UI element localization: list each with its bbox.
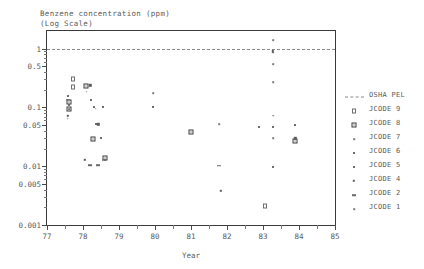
x-axis-tick	[335, 225, 336, 230]
x-axis-tick	[47, 225, 48, 230]
legend-row: JCODE 6	[345, 146, 424, 160]
data-point	[96, 164, 100, 166]
y-axis-tick-label: 0.5	[27, 62, 41, 71]
legend-label: JCODE 6	[369, 147, 401, 155]
y-axis-minor-tick	[44, 113, 48, 114]
data-point	[272, 137, 274, 139]
data-point	[71, 77, 75, 82]
y-axis-tick-label: 0.1	[27, 103, 41, 112]
y-axis-tick	[42, 66, 47, 67]
data-point	[91, 137, 96, 142]
data-point	[189, 130, 194, 135]
y-axis-tick	[42, 184, 47, 185]
data-point	[294, 137, 296, 139]
legend-row: JCODE 9	[345, 104, 424, 118]
y-axis-tick-label: 1	[36, 44, 41, 53]
x-axis-minor-tick	[137, 225, 138, 229]
y-axis-minor-tick	[44, 62, 48, 63]
y-axis-minor-tick	[44, 138, 48, 139]
data-point	[102, 159, 104, 161]
data-point	[272, 39, 274, 41]
x-axis-tick-label: 82	[222, 232, 231, 241]
data-point	[272, 63, 274, 65]
x-axis-minor-tick	[281, 225, 282, 229]
y-axis-minor-tick	[44, 72, 48, 73]
data-point	[263, 204, 267, 209]
x-axis-tick-label: 83	[258, 232, 267, 241]
y-axis-minor-tick	[44, 190, 48, 191]
data-point	[294, 124, 296, 126]
y-axis-minor-tick	[44, 179, 48, 180]
data-point	[272, 115, 274, 117]
data-point	[86, 91, 88, 93]
y-axis-minor-tick	[44, 207, 48, 208]
data-point	[67, 95, 69, 97]
x-axis-tick-label: 78	[78, 232, 87, 241]
y-axis-tick-label: 0.001	[18, 221, 41, 230]
y-axis-minor-tick	[44, 149, 48, 150]
y-axis-tick	[42, 166, 47, 167]
y-axis-minor-tick	[44, 197, 48, 198]
legend-label: JCODE 4	[369, 175, 401, 183]
y-axis-minor-tick	[44, 172, 48, 173]
y-axis-minor-tick	[44, 110, 48, 111]
y-axis-minor-tick	[44, 58, 48, 59]
osha-pel-threshold-line	[47, 49, 335, 50]
plot-area: 10.50.10.050.010.0050.001777879808182838…	[46, 30, 336, 226]
x-axis-tick-label: 80	[150, 232, 159, 241]
y-axis-minor-tick	[44, 175, 48, 176]
legend-row: JCODE 5	[345, 160, 424, 174]
legend-label: JCODE 7	[369, 133, 401, 141]
x-axis-minor-tick	[173, 225, 174, 229]
x-axis-minor-tick	[245, 225, 246, 229]
data-point	[272, 126, 274, 128]
y-axis-tick	[42, 125, 47, 126]
data-point	[97, 123, 99, 125]
x-axis-tick	[191, 225, 192, 230]
y-axis-tick-label: 0.05	[23, 121, 41, 130]
legend-label: OSHA PEL	[369, 91, 405, 99]
data-point	[258, 126, 260, 128]
x-axis-tick	[299, 225, 300, 230]
y-axis-minor-tick	[44, 79, 48, 80]
data-point	[272, 81, 274, 83]
x-axis-tick	[83, 225, 84, 230]
y-axis-tick	[42, 107, 47, 108]
legend-row: JCODE 4	[345, 174, 424, 188]
data-point	[66, 99, 70, 101]
y-axis-minor-tick	[44, 120, 48, 121]
legend-label: JCODE 9	[369, 105, 401, 113]
y-axis-tick	[42, 49, 47, 50]
data-point	[84, 158, 86, 160]
data-point	[93, 106, 95, 108]
y-axis-minor-tick	[44, 51, 48, 52]
x-axis-minor-tick	[317, 225, 318, 229]
legend-label: JCODE 8	[369, 119, 401, 127]
legend-row: JCODE 2	[345, 188, 424, 202]
data-point	[272, 50, 274, 52]
x-axis-minor-tick	[101, 225, 102, 229]
data-point	[100, 137, 102, 139]
x-axis-minor-tick	[65, 225, 66, 229]
data-point	[90, 99, 92, 101]
x-axis-tick-label: 81	[186, 232, 195, 241]
y-axis-minor-tick	[44, 117, 48, 118]
legend-row: JCODE 8	[345, 118, 424, 132]
legend-label: JCODE 2	[369, 189, 401, 197]
data-point	[83, 83, 88, 88]
x-axis-tick	[227, 225, 228, 230]
y-axis-minor-tick	[44, 169, 48, 170]
data-point	[272, 166, 274, 168]
chart-legend: OSHA PELJCODE 9JCODE 8JCODE 7JCODE 6JCOD…	[345, 90, 424, 216]
y-axis-minor-tick	[44, 131, 48, 132]
x-axis-tick	[155, 225, 156, 230]
plot-canvas: 10.50.10.050.010.0050.001777879808182838…	[47, 31, 335, 225]
legend-row: JCODE 7	[345, 132, 424, 146]
y-axis-minor-tick	[44, 54, 48, 55]
y-axis-tick-label: 0.005	[18, 179, 41, 188]
data-point	[89, 84, 91, 86]
x-axis-tick-label: 77	[42, 232, 51, 241]
legend-label: JCODE 5	[369, 161, 401, 169]
data-point	[219, 190, 221, 192]
x-axis-title: Year	[182, 251, 200, 260]
